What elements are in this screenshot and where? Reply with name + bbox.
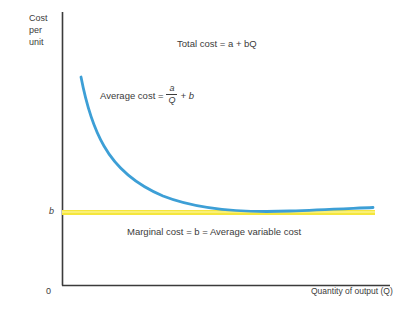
y-axis-tick-label-b: b: [49, 206, 54, 217]
total-cost-annotation: Total cost = a + bQ: [177, 38, 257, 49]
y-axis-title-line-3: unit: [29, 36, 57, 48]
average-cost-fraction: a Q: [166, 84, 177, 105]
y-axis-title-line-2: per: [29, 24, 57, 36]
average-cost-lead-text: Average cost =: [100, 90, 163, 101]
y-axis-title-line-1: Cost: [29, 12, 57, 24]
cost-curve-figure: Cost per unit Quantity of output (Q) 0 b…: [0, 0, 399, 316]
average-cost-numerator: a: [167, 84, 176, 94]
origin-label: 0: [46, 286, 51, 297]
marginal-cost-annotation: Marginal cost = b = Average variable cos…: [127, 226, 301, 237]
average-cost-denominator: Q: [166, 95, 177, 105]
y-axis-title: Cost per unit: [29, 12, 57, 48]
x-axis-title: Quantity of output (Q): [311, 286, 393, 297]
average-cost-annotation: Average cost = a Q + b: [100, 85, 194, 106]
average-cost-trail-text: + b: [180, 90, 193, 101]
